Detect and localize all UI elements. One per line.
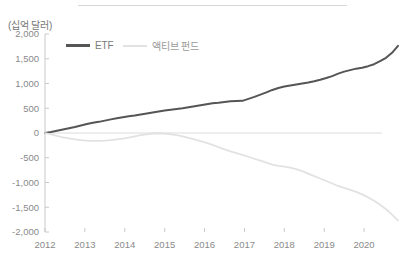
x-tick-label: 2015 [154,239,175,250]
y-tick-label: 2,000 [15,28,39,39]
y-tick-label: 500 [23,103,39,114]
y-tick-label: -1,000 [12,177,39,188]
x-tick-label: 2012 [34,239,55,250]
x-tick-label: 2014 [114,239,135,250]
x-tick-label: 2018 [274,239,295,250]
x-tick-label: 2016 [194,239,215,250]
y-tick-label: 0 [34,127,39,138]
x-tick-label: 2013 [74,239,95,250]
series-line-etf [45,46,398,133]
x-tick-label: 2019 [314,239,335,250]
y-tick-label: 1,500 [15,53,39,64]
x-tick-label: 2020 [354,239,375,250]
y-tick-label: -500 [20,152,39,163]
plot-area: 2,0001,5001,0005000-500-1,000-1,500-2,00… [0,0,417,263]
y-tick-label: -2,000 [12,226,39,237]
y-tick-label: -1,500 [12,202,39,213]
series-line-active-fund [45,133,398,221]
y-tick-label: 1,000 [15,78,39,89]
chart-figure: (십억 달러) ETF 액티브 펀드 2,0001,5001,0005000-5… [0,0,417,263]
y-axis: 2,0001,5001,0005000-500-1,000-1,500-2,00… [12,28,49,237]
x-tick-label: 2017 [234,239,255,250]
x-axis: 201220132014201520162017201820192020 [34,228,374,250]
